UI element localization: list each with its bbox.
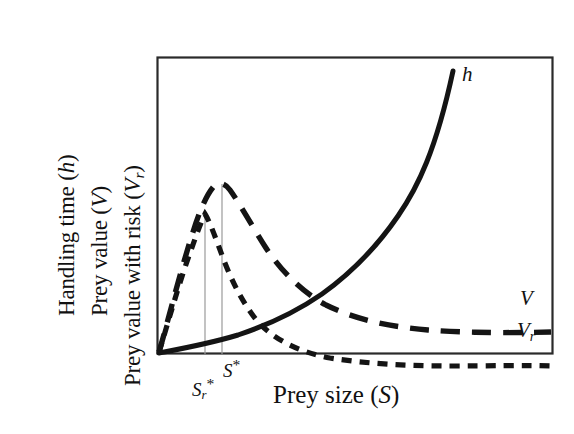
curve-label-vr: Vr — [517, 318, 535, 345]
y-axis-label-line-handling-time: Handling time (h) — [54, 155, 80, 316]
y-axis-label-line-prey-value-risk: Prey value with risk (Vr) — [120, 165, 148, 386]
annotation-s-symbol: S — [223, 360, 233, 381]
y-axis-line-3-close: ) — [120, 165, 145, 172]
y-axis-line-3-text: Prey value with risk ( — [120, 192, 145, 386]
y-axis-line-1-close: ) — [54, 155, 79, 162]
y-axis-line-1-symbol: h — [54, 162, 79, 173]
curve-label-h: h — [462, 62, 473, 87]
y-axis-label: Handling time (h) Prey value (V) Prey va… — [0, 0, 150, 434]
annotation-sr-symbol: S — [192, 379, 202, 400]
y-axis-line-1-text: Handling time ( — [54, 173, 79, 316]
curve-label-v-symbol: V — [520, 286, 533, 310]
plot-frame — [158, 58, 553, 354]
x-axis-label-close: ) — [391, 381, 399, 408]
y-axis-line-3-symbol: V — [120, 179, 145, 193]
annotation-s-star: * — [233, 356, 241, 373]
y-axis-line-2-symbol: V — [87, 193, 112, 207]
y-axis-label-line-prey-value: Prey value (V) — [87, 186, 113, 316]
curve-label-h-symbol: h — [462, 62, 473, 86]
x-axis-label-symbol: S — [379, 381, 392, 408]
annotation-sr-star: * — [207, 375, 215, 392]
curve-label-v: V — [520, 286, 533, 311]
y-axis-line-3-subscript: r — [130, 173, 147, 179]
x-axis-label: Prey size (S) — [273, 381, 399, 409]
annotation-optimal-prey-size: S* — [223, 356, 240, 382]
curve-label-vr-symbol: V — [517, 318, 530, 342]
annotation-optimal-prey-size-risk: Sr* — [192, 375, 214, 403]
y-axis-line-2-text: Prey value ( — [87, 207, 112, 316]
curve-label-vr-subscript: r — [530, 328, 536, 344]
x-axis-label-text: Prey size ( — [273, 381, 379, 408]
y-axis-line-2-close: ) — [87, 186, 112, 193]
figure-root: Handling time (h) Prey value (V) Prey va… — [0, 0, 574, 434]
